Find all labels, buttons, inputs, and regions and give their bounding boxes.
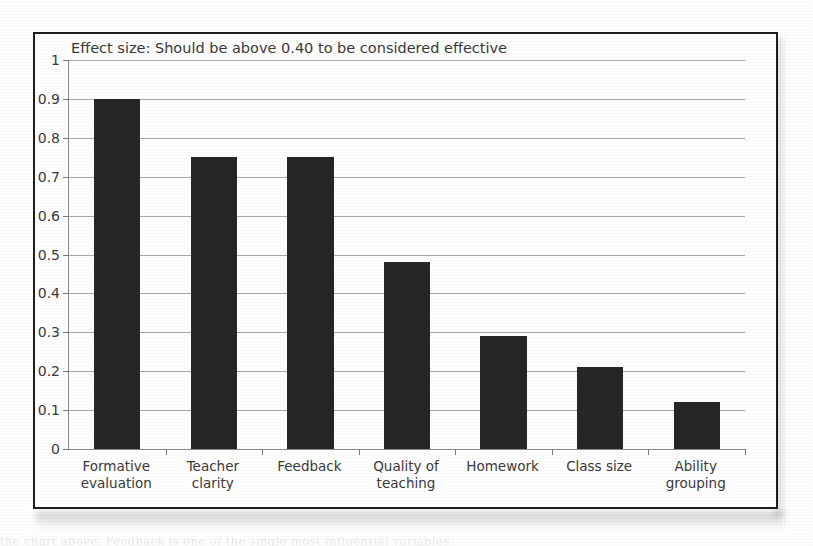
bar <box>384 262 430 449</box>
bar <box>287 157 333 449</box>
y-axis-tick-label: 0.9 <box>38 91 60 107</box>
bar <box>577 367 623 449</box>
chart-title: Effect size: Should be above 0.40 to be … <box>71 40 507 56</box>
category-label-line: Homework <box>454 458 551 475</box>
y-axis-tick-label: 0.4 <box>38 285 60 301</box>
x-axis-category-label: Abilitygrouping <box>647 458 744 491</box>
y-axis-tick <box>63 371 69 372</box>
gridline <box>69 216 745 217</box>
category-label-line: Class size <box>551 458 648 475</box>
gridline <box>69 60 745 61</box>
y-axis-tick <box>63 293 69 294</box>
bar <box>94 99 140 449</box>
y-axis-tick <box>63 255 69 256</box>
y-axis-tick <box>63 138 69 139</box>
category-label-line: Teacher <box>165 458 262 475</box>
y-axis-tick-label: 0.5 <box>38 247 60 263</box>
gridline <box>69 255 745 256</box>
figure-drop-shadow <box>36 512 784 528</box>
y-axis-tick-label: 0 <box>51 441 60 457</box>
x-axis-category-label: Quality ofteaching <box>358 458 455 491</box>
y-axis-tick-label: 0.2 <box>38 363 60 379</box>
category-label-line: grouping <box>647 475 744 492</box>
gridline <box>69 138 745 139</box>
category-label-line: evaluation <box>68 475 165 492</box>
y-axis-tick-label: 0.3 <box>38 324 60 340</box>
x-axis-tick <box>745 449 746 455</box>
y-axis-tick-label: 0.6 <box>38 208 60 224</box>
category-label-line: Formative <box>68 458 165 475</box>
bar-chart-figure: Effect size: Should be above 0.40 to be … <box>33 32 778 509</box>
y-axis-tick <box>63 216 69 217</box>
bar <box>674 402 720 449</box>
bar <box>480 336 526 449</box>
x-axis-category-label: Teacherclarity <box>165 458 262 491</box>
x-axis-category-label: Feedback <box>261 458 358 475</box>
y-axis-tick-label: 0.1 <box>38 402 60 418</box>
category-label-line: Ability <box>647 458 744 475</box>
category-label-line: Feedback <box>261 458 358 475</box>
gridline <box>69 177 745 178</box>
x-axis-category-label: Formativeevaluation <box>68 458 165 491</box>
x-axis-category-label: Homework <box>454 458 551 475</box>
page-bleed-text: the chart above. Feedback is one of the … <box>0 534 813 546</box>
y-axis-tick-label: 0.8 <box>38 130 60 146</box>
y-axis-tick-label: 0.7 <box>38 169 60 185</box>
y-axis-tick <box>63 60 69 61</box>
category-label-line: Quality of <box>358 458 455 475</box>
plot-area: 00.10.20.30.40.50.60.70.80.91 <box>68 60 745 450</box>
category-label-line: teaching <box>358 475 455 492</box>
y-axis-tick <box>63 410 69 411</box>
y-axis-tick <box>63 99 69 100</box>
y-axis-tick <box>63 332 69 333</box>
category-label-line: clarity <box>165 475 262 492</box>
x-axis-category-labels: FormativeevaluationTeacherclarityFeedbac… <box>68 452 745 506</box>
y-axis-tick <box>63 449 69 450</box>
scanned-page: Effect size: Should be above 0.40 to be … <box>0 0 813 546</box>
bar <box>191 157 237 449</box>
x-axis-category-label: Class size <box>551 458 648 475</box>
gridline <box>69 99 745 100</box>
y-axis-tick <box>63 177 69 178</box>
y-axis-tick-label: 1 <box>51 52 60 68</box>
